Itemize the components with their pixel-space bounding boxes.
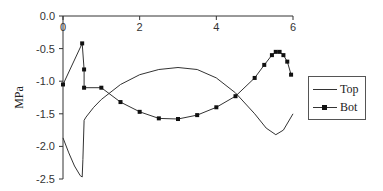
y-tick-label: -2.5: [36, 173, 55, 185]
data-point: [82, 67, 86, 71]
data-point: [234, 94, 238, 98]
series-bot-line: [63, 43, 291, 119]
axes: 02460.0-0.5-1.0-1.5-2.0-2.5MPa: [12, 10, 296, 185]
data-point: [82, 86, 86, 90]
legend: Top Bot: [308, 76, 366, 120]
y-tick-label: -0.5: [36, 43, 55, 55]
data-point: [281, 53, 285, 57]
x-tick-label: 2: [137, 21, 143, 33]
data-point: [285, 60, 289, 64]
data-point: [214, 105, 218, 109]
legend-item-bot: Bot: [313, 99, 357, 115]
data-point: [99, 86, 103, 90]
line-swatch-icon: [313, 89, 337, 90]
plot-area: [61, 41, 293, 177]
data-point: [195, 113, 199, 117]
y-tick-label: -1.5: [36, 108, 55, 120]
data-point: [119, 100, 123, 104]
x-tick-label: 6: [290, 21, 296, 33]
data-point: [253, 76, 257, 80]
data-point: [274, 50, 278, 54]
data-point: [278, 50, 282, 54]
square-marker-line-icon: [313, 107, 337, 108]
y-axis-label: MPa: [12, 85, 26, 108]
x-tick-label: 0: [60, 21, 66, 33]
x-tick-label: 4: [213, 21, 219, 33]
data-point: [262, 63, 266, 67]
data-point: [157, 116, 161, 120]
y-tick-label: -2.0: [36, 140, 55, 152]
data-point: [289, 73, 293, 77]
y-tick-label: 0.0: [40, 10, 55, 22]
data-point: [61, 82, 65, 86]
legend-label: Top: [340, 82, 359, 97]
data-point: [270, 53, 274, 57]
data-point: [176, 117, 180, 121]
legend-label: Bot: [340, 100, 357, 115]
data-point: [138, 110, 142, 114]
legend-item-top: Top: [313, 81, 359, 97]
series-top-line: [63, 68, 293, 178]
y-tick-label: -1.0: [36, 75, 55, 87]
data-point: [80, 41, 84, 45]
